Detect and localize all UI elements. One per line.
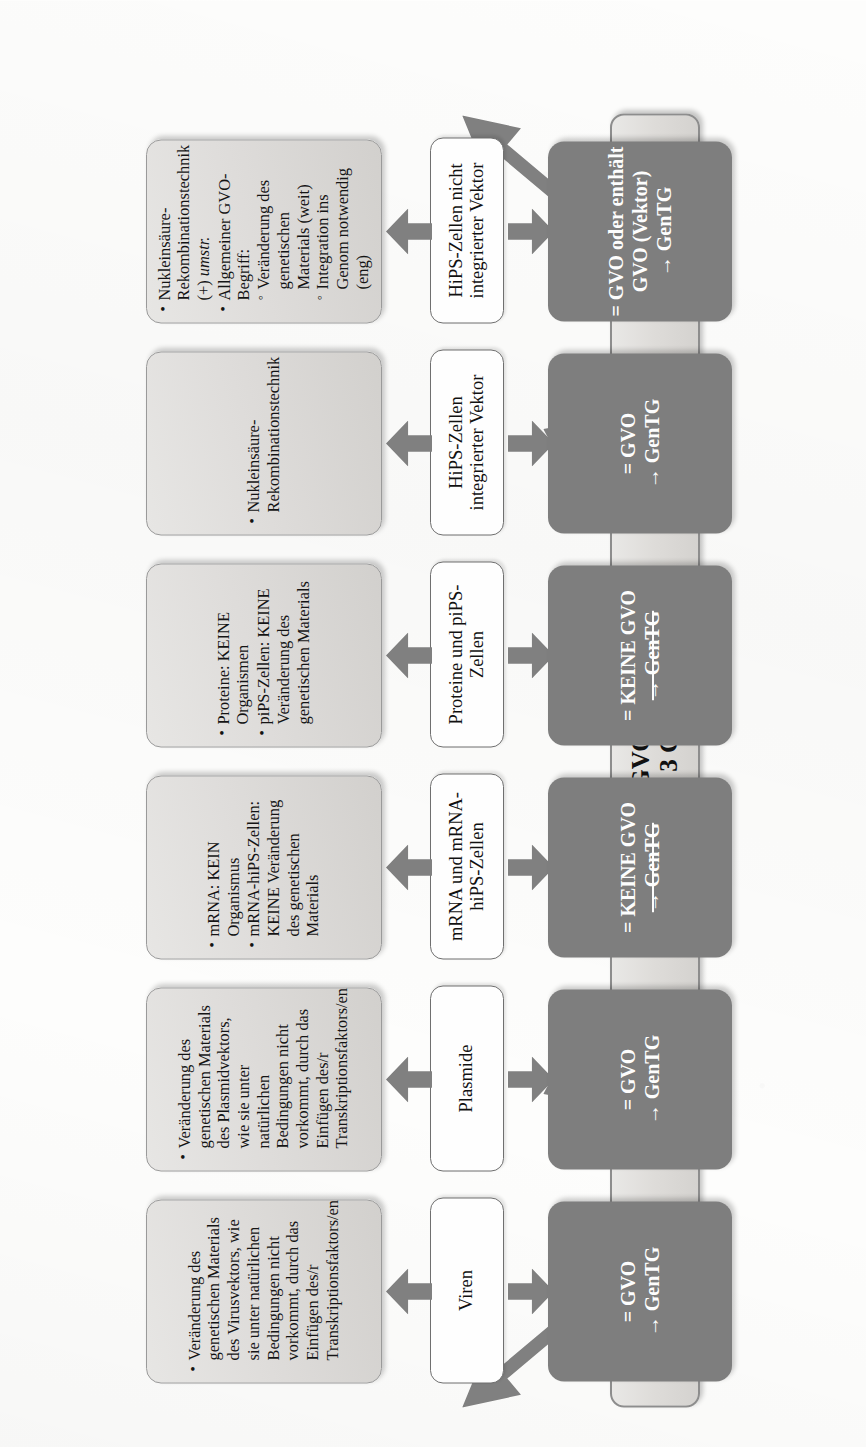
detail-bullet-text: Veränderung des genetischen Materials de…	[185, 1199, 342, 1360]
branch-column-hips-integriert: HiPS-Zellen integrierter VektorNukleinsä…	[0, 345, 866, 541]
category-to-detail-arrow-icon	[386, 420, 432, 466]
result-line2: → GenTG	[640, 1034, 664, 1123]
result-line1: = GVO oder enthält GVO (Vektor)	[604, 141, 652, 321]
detail-bullet-text: mRNA: KEIN Organismus	[204, 841, 243, 936]
detail-list: Proteine: KEINE OrganismenpiPS-Zellen: K…	[214, 575, 314, 735]
category-label: HiPS-Zellen nicht integrierter Vektor	[446, 138, 489, 322]
result-box-mrna[interactable]: = KEINE GVO→ GenTG	[548, 777, 732, 957]
detail-box-proteine-pips[interactable]: Proteine: KEINE OrganismenpiPS-Zellen: K…	[146, 563, 382, 747]
detail-bullet: Veränderung des genetischen Materials de…	[175, 999, 352, 1159]
detail-bullet-text: piPS-Zellen: KEINE Veränderung des genet…	[254, 581, 312, 724]
result-line1: = GVO	[616, 1034, 640, 1123]
category-box-hips-integriert[interactable]: HiPS-Zellen integrierter Vektor	[430, 349, 504, 535]
result-line1: = GVO	[616, 398, 640, 487]
result-line1: = KEINE GVO	[616, 590, 640, 721]
category-box-hips-nicht-integriert[interactable]: HiPS-Zellen nicht integrierter Vektor	[430, 137, 504, 323]
result-line2: → GenTG	[640, 1246, 664, 1335]
branch-column-proteine-pips: Proteine und piPS-ZellenProteine: KEINE …	[0, 557, 866, 753]
category-label: Plasmide	[456, 1039, 477, 1117]
category-box-viren[interactable]: Viren	[430, 1197, 504, 1383]
category-to-detail-arrow-icon	[386, 1056, 432, 1102]
detail-list: Veränderung des genetischen Materials de…	[175, 999, 353, 1159]
category-to-detail-arrow-icon	[386, 208, 432, 254]
detail-bullet: Allgemeiner GVO-Begriff:Veränderung des …	[215, 151, 373, 311]
result-label: = GVO→ GenTG	[616, 1034, 664, 1123]
diagram-canvas: GVO (§ 3 Nr. 3 GenTG) VirenVeränderung d…	[0, 0, 866, 1447]
result-line2: → GenTG	[640, 590, 664, 721]
detail-list: Nukleinsäure-Rekombinationstechnik (+) u…	[155, 151, 374, 311]
result-box-proteine-pips[interactable]: = KEINE GVO→ GenTG	[548, 565, 732, 745]
result-label: = GVO oder enthält GVO (Vektor)→ GenTG	[604, 141, 676, 321]
category-box-mrna[interactable]: mRNA und mRNA-hiPS-Zellen	[430, 773, 504, 959]
detail-box-mrna[interactable]: mRNA: KEIN OrganismusmRNA-hiPS-Zellen: K…	[146, 775, 382, 959]
result-box-hips-nicht-integriert[interactable]: = GVO oder enthält GVO (Vektor)→ GenTG	[548, 141, 732, 321]
detail-list: Nukleinsäure-Rekombinationstechnik	[244, 363, 284, 523]
category-label: mRNA und mRNA-hiPS-Zellen	[446, 774, 489, 958]
result-line2: → GenTG	[640, 398, 664, 487]
category-label: HiPS-Zellen integrierter Vektor	[446, 350, 489, 534]
category-box-proteine-pips[interactable]: Proteine und piPS-Zellen	[430, 561, 504, 747]
result-line2: → GenTG	[640, 802, 664, 933]
detail-box-viren[interactable]: Veränderung des genetischen Materials de…	[146, 1199, 382, 1383]
detail-bullet: mRNA-hiPS-Zellen: KEINE Veränderung des …	[244, 787, 323, 947]
result-label: = GVO→ GenTG	[616, 398, 664, 487]
result-label: = GVO→ GenTG	[616, 1246, 664, 1335]
detail-bullet: mRNA: KEIN Organismus	[204, 787, 243, 947]
detail-bullet-text: Veränderung des genetischen Materials de…	[175, 987, 352, 1148]
result-box-hips-integriert[interactable]: = GVO→ GenTG	[548, 353, 732, 533]
category-to-detail-arrow-icon	[386, 844, 432, 890]
branch-column-hips-nicht-integriert: HiPS-Zellen nicht integrierter VektorNuk…	[0, 133, 866, 329]
detail-bullet-text: Nukleinsäure-Rekombinationstechnik (+)	[155, 144, 213, 300]
result-box-plasmide[interactable]: = GVO→ GenTG	[548, 989, 732, 1169]
detail-sublist: Veränderung des genetischen Materials (w…	[254, 151, 372, 300]
detail-box-hips-nicht-integriert[interactable]: Nukleinsäure-Rekombinationstechnik (+) u…	[146, 139, 382, 323]
category-label: Viren	[456, 1265, 477, 1316]
detail-bullet-text: Allgemeiner GVO-Begriff:	[215, 173, 254, 300]
detail-bullet-text: Proteine: KEINE Organismen	[214, 612, 253, 724]
category-box-plasmide[interactable]: Plasmide	[430, 985, 504, 1171]
category-to-detail-arrow-icon	[386, 1268, 432, 1314]
detail-box-plasmide[interactable]: Veränderung des genetischen Materials de…	[146, 987, 382, 1171]
result-line1: = KEINE GVO	[616, 802, 640, 933]
result-label: = KEINE GVO→ GenTG	[616, 802, 664, 933]
category-to-detail-arrow-icon	[386, 632, 432, 678]
result-line1: = GVO	[616, 1246, 640, 1335]
branch-column-plasmide: PlasmideVeränderung des genetischen Mate…	[0, 981, 866, 1177]
detail-bullet: Nukleinsäure-Rekombinationstechnik	[244, 363, 283, 523]
detail-bullet: piPS-Zellen: KEINE Veränderung des genet…	[254, 575, 313, 735]
result-line2: → GenTG	[652, 141, 676, 321]
detail-bullet-text: Nukleinsäure-Rekombinationstechnik	[244, 356, 283, 512]
detail-list: mRNA: KEIN OrganismusmRNA-hiPS-Zellen: K…	[204, 787, 324, 947]
detail-subbullet: Integration ins Genom notwendig (eng)	[313, 151, 372, 300]
detail-bullet-text: mRNA-hiPS-Zellen: KEINE Veränderung des …	[244, 799, 322, 936]
detail-bullet: Veränderung des genetischen Materials de…	[185, 1211, 343, 1371]
result-label: = KEINE GVO→ GenTG	[616, 590, 664, 721]
detail-subbullet: Veränderung des genetischen Materials (w…	[254, 151, 313, 300]
category-label: Proteine und piPS-Zellen	[446, 562, 489, 746]
branch-column-viren: VirenVeränderung des genetischen Materia…	[0, 1193, 866, 1389]
branch-column-mrna: mRNA und mRNA-hiPS-ZellenmRNA: KEIN Orga…	[0, 769, 866, 965]
detail-box-hips-integriert[interactable]: Nukleinsäure-Rekombinationstechnik	[146, 351, 382, 535]
detail-bullet: Nukleinsäure-Rekombinationstechnik (+) u…	[155, 151, 214, 311]
detail-bullet: Proteine: KEINE Organismen	[214, 575, 253, 735]
detail-list: Veränderung des genetischen Materials de…	[185, 1211, 344, 1371]
detail-bullet-emphasis: umstr.	[194, 236, 213, 276]
result-box-viren[interactable]: = GVO→ GenTG	[548, 1201, 732, 1381]
